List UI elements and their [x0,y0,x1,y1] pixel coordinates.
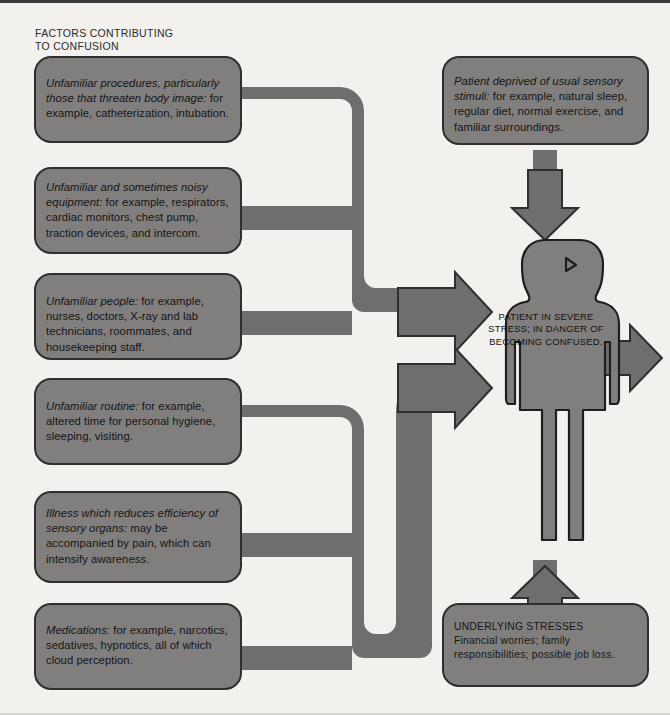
factor-lead: Unfamiliar procedures, particularly thos… [46,77,219,104]
arrow-right-upper-into-patient [398,272,492,352]
factor-text-sensory-deprivation: Patient deprived of usual sensory stimul… [454,74,640,135]
page-title: FACTORS CONTRIBUTING TO CONFUSION [35,27,173,53]
factor-text-underlying-stresses: UNDERLYING STRESSES Financial worries; f… [454,620,644,663]
factor-text-unfamiliar-procedures: Unfamiliar procedures, particularly thos… [46,76,232,122]
factor-text-illness-sensory-organs: Illness which reduces efficiency of sens… [46,506,232,567]
factor-lead: Unfamiliar routine: [46,400,139,412]
underlying-stresses-title: UNDERLYING STRESSES [454,620,644,634]
factor-text-unfamiliar-people: Unfamiliar people: for example, nurses, … [46,294,236,355]
patient-figure-silhouette [506,240,619,540]
factor-text-unfamiliar-equipment: Unfamiliar and sometimes noisy equipment… [46,180,232,241]
patient-figure-label: PATIENT IN SEVERE STRESS; IN DANGER OF B… [487,311,605,348]
connector-group-upper [240,87,400,335]
factor-text-medications: Medications: for example, narcotics, sed… [46,623,232,669]
factor-lead: Medications: [46,624,110,636]
factor-text-unfamiliar-routine: Unfamiliar routine: for example, altered… [46,399,234,445]
diagram-page: .box { fill:#807f7d; stroke:#2f2f2f; str… [0,0,670,715]
factor-lead: Unfamiliar people: [46,295,138,307]
underlying-stresses-body: Financial worries; family responsibiliti… [454,634,644,662]
arrow-down-into-patient [512,170,578,240]
